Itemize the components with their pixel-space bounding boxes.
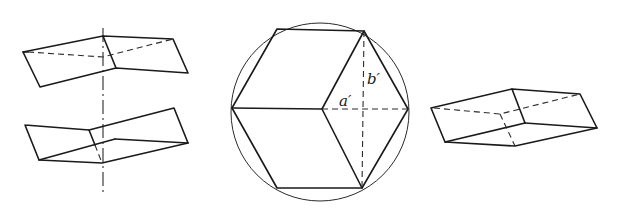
center-panel: a′ b′ <box>231 23 409 201</box>
rhombohedron-perspective <box>431 89 597 146</box>
diagram-canvas: a′ b′ <box>0 0 620 214</box>
upper-half <box>23 36 188 87</box>
right-panel <box>431 89 597 146</box>
lower-half <box>25 108 188 163</box>
left-panel <box>23 28 188 193</box>
circumscribed-circle <box>231 23 409 201</box>
label-a-prime: a′ <box>339 92 352 110</box>
hexagon-projection <box>232 29 408 188</box>
label-b-prime: b′ <box>367 70 381 88</box>
